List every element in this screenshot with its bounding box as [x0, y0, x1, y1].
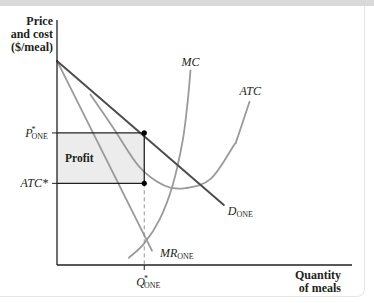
p-star-tick-label: P*ONE	[24, 125, 48, 141]
x-axis-label-line-2: of meals	[299, 281, 342, 295]
q-star-tick-label: Q*ONE	[136, 274, 160, 290]
atc-point	[142, 181, 147, 186]
x-axis-label-line-1: Quantity	[295, 268, 341, 282]
y-axis-label-line-1: Price	[26, 14, 53, 28]
demand-label-main: D	[227, 204, 237, 218]
profit-label: Profit	[65, 152, 94, 164]
mr-label-main: MR	[159, 246, 178, 260]
y-axis-label-line-3: ($/meal)	[11, 40, 53, 54]
mr-label-sub: ONE	[177, 252, 194, 261]
y-axis-label-line-2: and cost	[11, 27, 53, 41]
atc-curve-label: ATC	[238, 84, 262, 98]
q-label-sub: ONE	[144, 281, 161, 290]
price-point	[142, 130, 147, 135]
demand-label-sub: ONE	[236, 210, 253, 219]
chart-svg: Price and cost ($/meal) Quantity of meal…	[0, 0, 374, 303]
mc-curve-label: MC	[180, 55, 200, 69]
demand-curve-label: DONE	[227, 204, 253, 219]
p-label-sub: ONE	[32, 132, 49, 141]
mr-curve-label: MRONE	[159, 246, 194, 261]
atc-star-tick-label: ATC*	[19, 176, 48, 190]
